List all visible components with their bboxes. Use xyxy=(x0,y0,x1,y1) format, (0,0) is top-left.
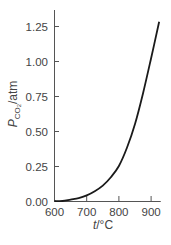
chart: 0.000.250.500.751.001.25600700800900 t/°… xyxy=(0,0,171,245)
y-tick-label: 0.75 xyxy=(26,91,48,103)
x-tick-label: 600 xyxy=(45,206,64,218)
x-tick-label: 900 xyxy=(142,206,161,218)
y-axis-label: PCO2/atm xyxy=(6,81,22,128)
x-tick-label: 800 xyxy=(109,206,128,218)
x-tick-label: 700 xyxy=(77,206,96,218)
x-axis-label: t/°C xyxy=(93,218,113,232)
axes xyxy=(54,10,161,202)
y-tick-label: 0.25 xyxy=(26,161,48,173)
ticks: 0.000.250.500.751.001.25600700800900 xyxy=(26,21,161,219)
y-tick-label: 1.25 xyxy=(26,21,48,33)
data-curve xyxy=(55,22,160,201)
y-tick-label: 1.00 xyxy=(26,56,48,68)
y-tick-label: 0.50 xyxy=(26,126,48,138)
